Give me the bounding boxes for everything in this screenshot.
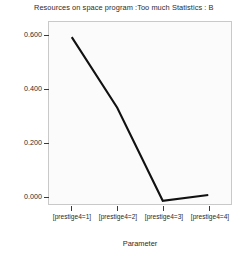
y-tick-label: 0.400 <box>24 84 42 93</box>
chart-title: Resources on space program :Too much Sta… <box>34 3 250 13</box>
x-tick-mark <box>71 206 72 211</box>
x-tick-mark <box>117 206 118 211</box>
x-tick-mark <box>209 206 210 211</box>
x-tick-label: [prestige4=1] <box>53 213 91 220</box>
y-tick-label: 0.600 <box>24 30 42 39</box>
y-tick-label: 0.000 <box>24 192 42 201</box>
y-tick-label: 0.200 <box>24 138 42 147</box>
series-values-line <box>72 37 209 201</box>
x-axis-label: Parameter <box>123 239 158 248</box>
x-tick-label: [prestige4=2] <box>99 213 137 220</box>
plot-area: 0.0000.2000.4000.600[prestige4=1][presti… <box>48 21 232 205</box>
chart-container: Resources on space program :Too much Sta… <box>0 0 250 258</box>
data-series-line <box>49 22 231 204</box>
x-tick-mark <box>163 206 164 211</box>
x-tick-label: [prestige4=3] <box>145 213 183 220</box>
x-tick-label: [prestige4=4] <box>191 213 229 220</box>
